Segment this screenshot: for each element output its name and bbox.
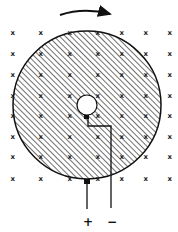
field-x-mark: x <box>168 175 173 183</box>
field-x-mark: x <box>96 71 101 79</box>
field-x-mark: x <box>68 133 73 141</box>
field-x-mark: x <box>168 112 173 120</box>
field-x-mark: x <box>168 92 173 100</box>
negative-terminal-label: − <box>107 215 117 229</box>
field-x-mark: x <box>11 153 16 161</box>
field-x-mark: x <box>120 175 125 183</box>
field-x-mark: x <box>68 71 73 79</box>
field-x-mark: x <box>168 29 173 37</box>
field-x-mark: x <box>39 175 44 183</box>
field-x-mark: x <box>96 133 101 141</box>
field-x-mark: x <box>39 153 44 161</box>
field-x-mark: x <box>39 29 44 37</box>
field-x-mark: x <box>144 112 149 120</box>
field-x-mark: x <box>11 92 16 100</box>
field-x-mark: x <box>39 133 44 141</box>
field-x-mark: x <box>11 133 16 141</box>
field-x-mark: x <box>39 112 44 120</box>
field-x-mark: x <box>96 50 101 58</box>
field-x-mark: x <box>168 71 173 79</box>
field-x-mark: x <box>11 29 16 37</box>
field-x-mark: x <box>144 50 149 58</box>
axle-hole <box>77 95 97 115</box>
field-x-mark: x <box>11 71 16 79</box>
field-x-mark: x <box>96 29 101 37</box>
rotation-arrow-icon <box>60 11 110 15</box>
field-x-mark: x <box>144 175 149 183</box>
field-x-mark: x <box>120 133 125 141</box>
field-x-mark: x <box>68 175 73 183</box>
field-x-mark: x <box>39 71 44 79</box>
field-x-mark: x <box>68 29 73 37</box>
field-x-mark: x <box>120 153 125 161</box>
field-x-mark: x <box>144 29 149 37</box>
field-x-mark: x <box>68 153 73 161</box>
field-x-mark: x <box>120 50 125 58</box>
field-x-mark: x <box>68 50 73 58</box>
field-x-mark: x <box>168 153 173 161</box>
field-x-mark: x <box>144 153 149 161</box>
field-x-mark: x <box>144 133 149 141</box>
field-x-mark: x <box>96 175 101 183</box>
field-x-mark: x <box>39 50 44 58</box>
field-x-mark: x <box>96 153 101 161</box>
field-x-mark: x <box>120 112 125 120</box>
field-x-mark: x <box>120 29 125 37</box>
field-x-mark: x <box>120 92 125 100</box>
field-x-mark: x <box>39 92 44 100</box>
field-x-mark: x <box>168 50 173 58</box>
field-x-mark: x <box>11 50 16 58</box>
field-x-mark: x <box>168 133 173 141</box>
field-x-mark: x <box>120 71 125 79</box>
field-x-mark: x <box>68 112 73 120</box>
field-x-mark: x <box>96 92 101 100</box>
field-x-mark: x <box>144 71 149 79</box>
field-x-mark: x <box>11 175 16 183</box>
field-x-mark: x <box>144 92 149 100</box>
field-x-mark: x <box>96 112 101 120</box>
field-x-mark: x <box>11 112 16 120</box>
faraday-disk-diagram: + − xxxxxxxxxxxxxxxxxxxxxxxxxxxxxxxxxxxx… <box>0 0 178 232</box>
positive-terminal-label: + <box>83 215 93 229</box>
field-x-mark: x <box>68 92 73 100</box>
